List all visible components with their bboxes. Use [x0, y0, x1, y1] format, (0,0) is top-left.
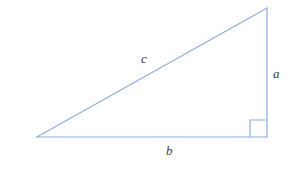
side-label-horizontal-leg-b: b [166, 144, 173, 157]
side-label-hypotenuse-c: c [141, 52, 147, 65]
side-label-vertical-leg-a: a [273, 67, 280, 80]
right-triangle-diagram: c a b [0, 0, 288, 169]
triangle-figure [0, 0, 288, 169]
right-angle-square-icon [250, 120, 267, 137]
triangle-side-c-line [37, 8, 267, 137]
